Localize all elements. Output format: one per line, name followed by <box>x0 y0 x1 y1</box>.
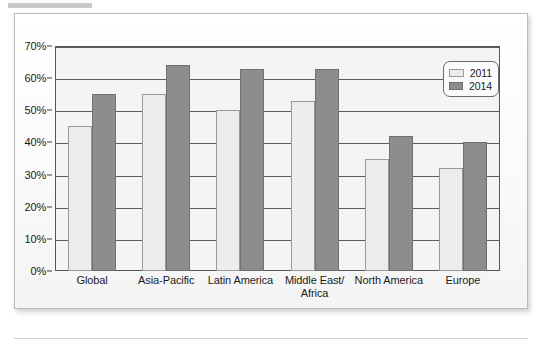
legend-label-2014: 2014 <box>469 80 492 92</box>
gridline <box>56 111 499 112</box>
y-axis-tick-label: 70% <box>25 40 46 52</box>
chart-legend: 2011 2014 <box>443 61 499 97</box>
legend-item-2014: 2014 <box>449 79 492 92</box>
y-axis-tick-label: 20% <box>25 201 46 213</box>
page-top-marker <box>8 3 92 8</box>
x-axis-category-label: Asia-Pacific <box>129 274 203 287</box>
x-axis-category-label: North America <box>352 274 426 287</box>
gridline <box>56 176 499 177</box>
gridline <box>56 208 499 209</box>
page-divider <box>14 338 528 339</box>
plot-area <box>55 46 500 271</box>
gridline <box>56 79 499 80</box>
y-axis-tick-mark <box>47 110 52 111</box>
y-axis-tick-mark <box>47 174 52 175</box>
legend-swatch-2011-icon <box>449 69 464 77</box>
y-axis-tick-label: 60% <box>25 72 46 84</box>
legend-item-2011: 2011 <box>449 66 492 79</box>
y-axis-tick-label: 50% <box>25 104 46 116</box>
y-axis-tick-mark <box>47 271 52 272</box>
gridline <box>56 143 499 144</box>
gridline <box>56 240 499 241</box>
y-axis-tick-mark <box>47 238 52 239</box>
y-axis-tick-mark <box>47 142 52 143</box>
y-axis: 0%10%20%30%40%50%60%70% <box>14 46 52 271</box>
x-axis: GlobalAsia-PacificLatin AmericaMiddle Ea… <box>55 274 500 308</box>
y-axis-tick-mark <box>47 78 52 79</box>
x-axis-category-label: Europe <box>426 274 500 287</box>
y-axis-tick-mark <box>47 46 52 47</box>
y-axis-tick-mark <box>47 206 52 207</box>
x-axis-category-label: Global <box>55 274 129 287</box>
x-axis-category-label: Latin America <box>203 274 277 287</box>
x-axis-category-label: Middle East/Africa <box>278 274 352 300</box>
y-axis-tick-label: 0% <box>31 265 47 277</box>
y-axis-tick-label: 10% <box>25 233 46 245</box>
legend-swatch-2014-icon <box>449 82 463 90</box>
legend-label-2011: 2011 <box>470 67 492 79</box>
y-axis-tick-label: 40% <box>25 136 46 148</box>
gridline <box>56 47 499 48</box>
y-axis-tick-label: 30% <box>25 169 46 181</box>
